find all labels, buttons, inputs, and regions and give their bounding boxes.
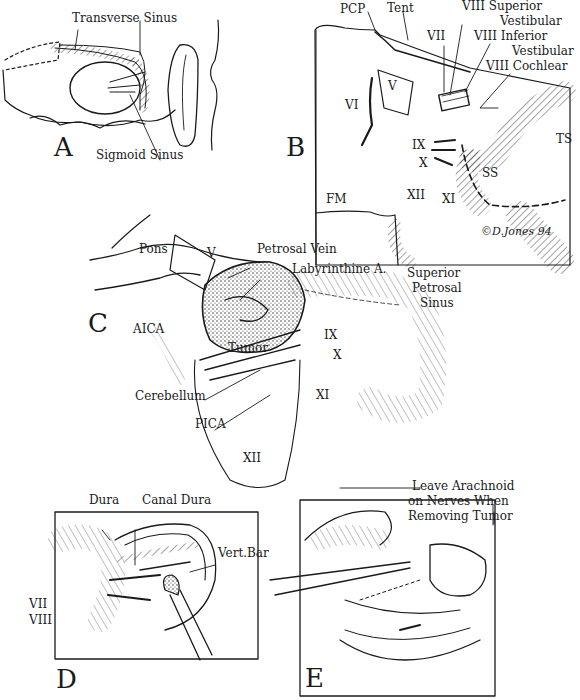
label-viii-cochlear: VIII Cochlear: [486, 60, 567, 73]
label-dura: Dura: [89, 494, 119, 507]
label-arachnoid-note-3: Removing Tumor: [408, 510, 513, 523]
label-xii-b: XII: [407, 189, 425, 202]
label-labyrinthine-artery: Labyrinthine A.: [292, 263, 386, 276]
label-tumor: Tumor: [228, 342, 268, 355]
label-xii-c: XII: [243, 452, 261, 465]
label-x-c: X: [333, 349, 342, 362]
label-canal-dura: Canal Dura: [142, 494, 211, 507]
illustration-art: [0, 0, 580, 700]
panel-letter-c: C: [88, 310, 108, 336]
label-vii: VII: [427, 30, 445, 43]
label-pons: Pons: [139, 243, 168, 256]
label-superior-petrosal-1: Superior: [407, 267, 460, 280]
panel-letter-a: A: [54, 134, 73, 160]
label-petrosal-vein: Petrosal Vein: [257, 243, 337, 256]
label-fm: FM: [326, 193, 347, 206]
panel-a-drawing: [3, 20, 219, 160]
label-superior-petrosal-2: Petrosal: [412, 282, 462, 295]
label-pica: PICA: [195, 418, 226, 431]
label-pcp: PCP: [340, 3, 365, 16]
label-ts: TS: [556, 133, 572, 146]
label-viii-superior-vestibular: Vestibular: [500, 15, 562, 28]
label-v-nerve-c: V: [207, 247, 216, 260]
label-viii-superior: VIII Superior: [462, 0, 542, 13]
label-superior-petrosal-3: Sinus: [420, 297, 454, 310]
label-ss: SS: [482, 167, 498, 180]
label-arachnoid-note-1: Leave Arachnoid: [412, 480, 514, 493]
label-vii-d: VII: [29, 598, 47, 611]
label-aica: AICA: [133, 323, 164, 336]
label-tent: Tent: [387, 2, 414, 15]
label-vi: VI: [345, 99, 358, 112]
label-transverse-sinus: Transverse Sinus: [72, 12, 177, 25]
panel-letter-e: E: [305, 665, 324, 691]
label-xi-c: XI: [316, 389, 329, 402]
label-sigmoid-sinus: Sigmoid Sinus: [96, 149, 183, 162]
label-x-b: X: [419, 157, 428, 170]
panel-letter-b: B: [286, 134, 305, 160]
label-vert-bar: Vert.Bar: [218, 547, 269, 560]
label-xi-b: XI: [442, 193, 455, 206]
label-viii-d: VIII: [29, 614, 52, 627]
label-viii-inferior: VIII Inferior: [474, 30, 547, 43]
label-v-nerve-b: V: [388, 80, 397, 93]
label-viii-inferior-vestibular: Vestibular: [512, 45, 574, 58]
label-arachnoid-note-2: on Nerves When: [408, 495, 509, 508]
artist-signature: ©D.Jones 94: [481, 225, 552, 238]
panel-e-drawing: [270, 500, 495, 696]
panel-letter-d: D: [56, 666, 77, 692]
label-ix-b: IX: [412, 139, 425, 152]
label-ix-c: IX: [324, 329, 337, 342]
panel-d-drawing: [55, 512, 258, 660]
label-cerebellum: Cerebellum: [135, 390, 206, 403]
